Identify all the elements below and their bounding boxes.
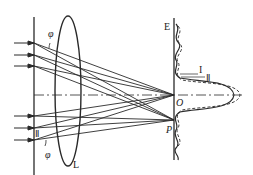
phi-arc-top (49, 43, 50, 48)
label-screen: E (164, 21, 170, 32)
incident-rays-bottom (14, 114, 34, 142)
incident-rays-top (14, 41, 34, 68)
phi-arc-bottom (45, 140, 46, 146)
label-point-p: P (165, 124, 172, 135)
label-curve-II: Ⅱ (206, 73, 210, 83)
label-lens: L (73, 159, 79, 170)
label-phi-bottom: φ (45, 149, 51, 160)
label-curve-I: I (199, 64, 202, 75)
label-beam-II: Ⅱ (35, 129, 39, 139)
label-origin: O (176, 97, 183, 108)
intensity-curve-I (175, 24, 234, 160)
label-phi-top: φ (48, 28, 54, 39)
intensity-curve-II (177, 26, 240, 146)
lens (55, 16, 81, 166)
optics-diagram: φ φ L E O P I Ⅱ Ⅱ (0, 0, 253, 175)
